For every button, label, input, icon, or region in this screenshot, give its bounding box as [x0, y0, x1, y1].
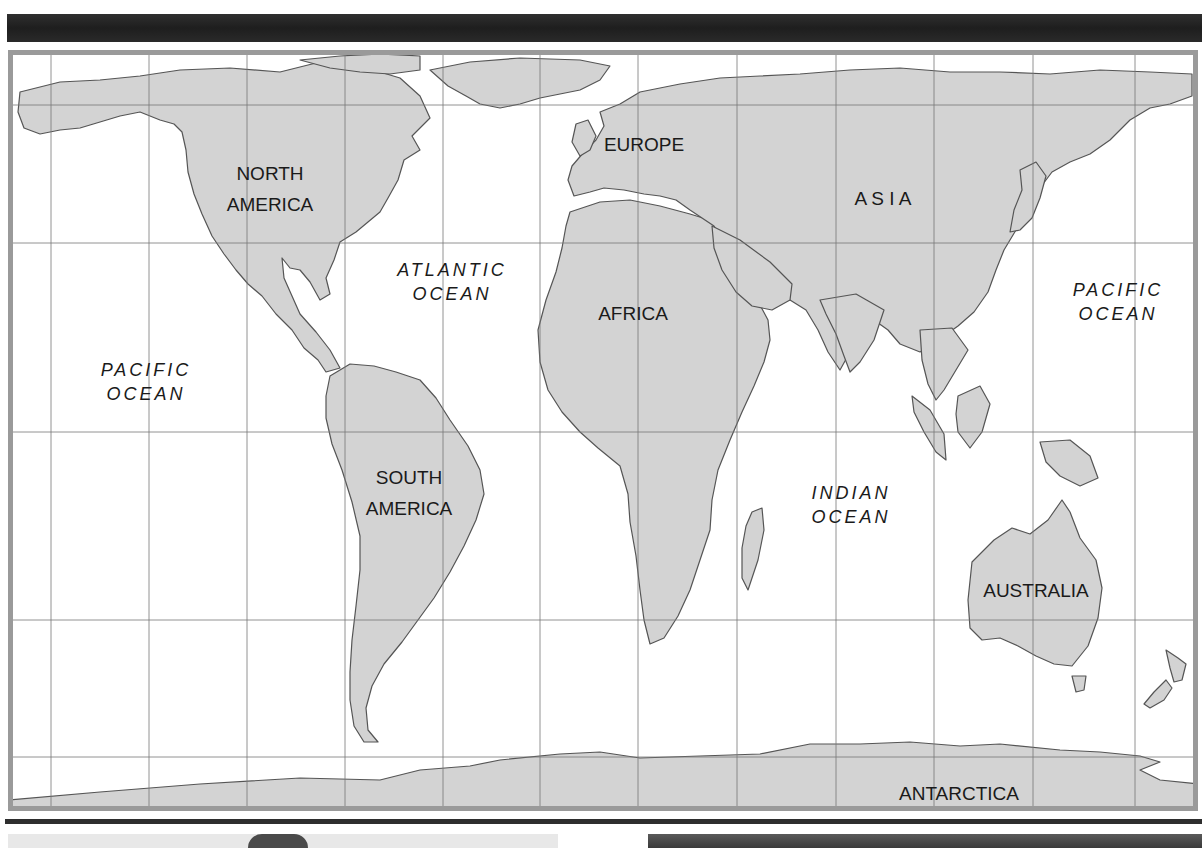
australia-label: AUSTRALIA [983, 580, 1089, 601]
landmass-antarctica [8, 742, 1198, 811]
landmass-new-guinea [1040, 440, 1098, 486]
indian-ocean-label: INDIANOCEAN [811, 483, 890, 527]
top-banner-bar [7, 14, 1202, 42]
world-map: NORTHAMERICASOUTHAMERICAEUROPEA S I AAFR… [8, 50, 1198, 811]
landmass-greenland [430, 58, 610, 108]
landmass-north-america [18, 62, 430, 372]
world-map-frame: NORTHAMERICASOUTHAMERICAEUROPEA S I AAFR… [8, 50, 1198, 811]
bottom-left-panel [8, 834, 558, 848]
landmass-new-zealand-s [1144, 680, 1172, 708]
pacific-ocean-west-label: PACIFICOCEAN [101, 360, 192, 404]
landmass-sumatra [912, 396, 946, 460]
pacific-ocean-east-label: PACIFICOCEAN [1073, 280, 1164, 324]
bottom-right-panel [648, 834, 1202, 848]
landmass-south-america [326, 364, 484, 742]
landmass-se-asia [920, 328, 968, 400]
landmass-madagascar [742, 508, 764, 590]
landmass-borneo [956, 386, 990, 448]
landmass-tasmania [1072, 676, 1086, 692]
asia-label: A S I A [854, 188, 911, 209]
bottom-left-image-fragment [248, 834, 308, 848]
europe-label: EUROPE [604, 134, 684, 155]
africa-label: AFRICA [598, 303, 668, 324]
antarctica-label: ANTARCTICA [899, 783, 1019, 804]
atlantic-ocean-label: ATLANTICOCEAN [396, 260, 507, 304]
landmass-new-zealand-n [1166, 650, 1186, 682]
land-layer [8, 54, 1198, 811]
bottom-divider-rule [5, 819, 1202, 824]
